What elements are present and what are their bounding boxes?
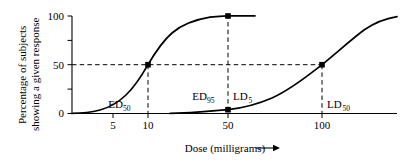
marker-ed50	[145, 62, 151, 68]
y-tick-label-50: 50	[53, 59, 65, 71]
annotation-ed95: ED 95	[192, 90, 214, 105]
annotation-ld5-label: LD	[233, 90, 248, 102]
annotation-ed95-subscript: 95	[207, 96, 215, 105]
annotation-ld50-label: LD	[327, 98, 342, 110]
y-axis-tick-labels: 100 50 0	[48, 10, 65, 119]
annotation-ed50-label: ED	[108, 98, 123, 110]
x-axis-arrow-head-icon	[273, 145, 280, 151]
y-tick-label-0: 0	[59, 107, 65, 119]
y-axis-ticks	[68, 16, 73, 114]
marker-ld5	[225, 107, 231, 113]
y-axis-label-line1: Percentage of subjects	[16, 26, 28, 124]
x-tick-label-10: 10	[143, 119, 155, 131]
x-axis-title-group: Dose (milligrams)	[185, 142, 280, 155]
annotation-ld50-subscript: 50	[343, 104, 351, 113]
x-tick-label-5: 5	[110, 119, 116, 131]
y-axis-label-line2: showing a given response	[29, 18, 41, 131]
annotation-ld50: LD 50	[327, 98, 350, 113]
marker-ed95	[225, 13, 231, 19]
dose-response-figure: Percentage of subjects showing a given r…	[0, 0, 413, 162]
x-axis-ticks	[113, 114, 322, 119]
annotation-ld5: LD 5	[233, 90, 253, 105]
x-tick-label-100: 100	[314, 119, 331, 131]
x-axis-tick-labels: 5 10 50 100	[110, 119, 331, 131]
y-axis-label: Percentage of subjects showing a given r…	[16, 18, 41, 131]
annotation-ld5-subscript: 5	[249, 96, 253, 105]
dose-response-chart: Percentage of subjects showing a given r…	[0, 0, 413, 162]
annotation-ed50: ED 50	[108, 98, 130, 113]
y-tick-label-100: 100	[48, 10, 65, 22]
annotation-ed95-label: ED	[192, 90, 207, 102]
x-axis-title: Dose (milligrams)	[185, 142, 266, 155]
annotation-ed50-subscript: 50	[123, 104, 131, 113]
x-tick-label-50: 50	[223, 119, 235, 131]
marker-ld50	[319, 62, 325, 68]
